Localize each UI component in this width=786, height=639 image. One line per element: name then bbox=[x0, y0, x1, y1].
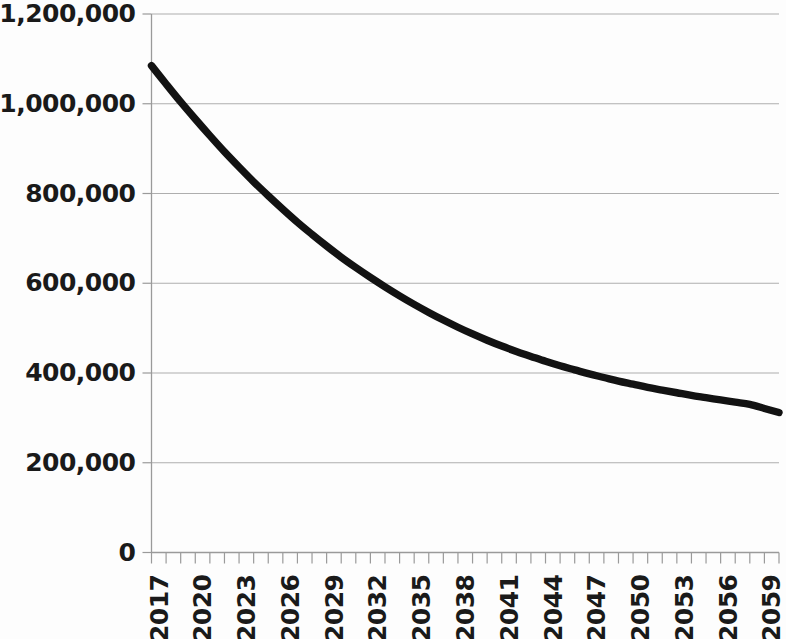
x-axis-tick-label: 2020 bbox=[188, 574, 217, 639]
y-axis-tick-label: 600,000 bbox=[25, 268, 135, 297]
x-axis-tick-label: 2047 bbox=[582, 575, 611, 639]
y-axis-tick-label: 800,000 bbox=[25, 179, 135, 208]
x-axis-tick-label: 2023 bbox=[232, 575, 261, 639]
x-axis-tick-label: 2041 bbox=[495, 575, 524, 639]
x-axis-tick-labels: 2017202020232026202920322035203820412044… bbox=[145, 574, 786, 639]
x-axis-tick-label: 2053 bbox=[670, 575, 699, 639]
x-axis-tick-label: 2056 bbox=[714, 574, 743, 639]
line-chart: 0200,000400,000600,000800,0001,000,0001,… bbox=[0, 0, 786, 639]
y-axis-tick-label: 1,200,000 bbox=[0, 0, 136, 28]
x-axis-tick-label: 2044 bbox=[539, 574, 568, 639]
x-axis-tick-label: 2059 bbox=[757, 575, 786, 639]
x-axis-tick-label: 2035 bbox=[407, 575, 436, 639]
x-axis-tick-label: 2029 bbox=[320, 575, 349, 639]
x-axis-tick-label: 2050 bbox=[626, 574, 655, 639]
y-axis-tick-label: 0 bbox=[119, 538, 136, 567]
x-axis-tick-label: 2032 bbox=[363, 575, 392, 639]
y-axis-tick-label: 200,000 bbox=[25, 448, 135, 477]
x-axis-tick-label: 2038 bbox=[451, 575, 480, 639]
y-axis-tick-label: 400,000 bbox=[25, 358, 135, 387]
chart-container: 0200,000400,000600,000800,0001,000,0001,… bbox=[0, 0, 786, 639]
y-axis-tick-label: 1,000,000 bbox=[0, 89, 136, 118]
x-axis-tick-label: 2026 bbox=[276, 574, 305, 639]
x-axis-tick-label: 2017 bbox=[145, 575, 174, 639]
